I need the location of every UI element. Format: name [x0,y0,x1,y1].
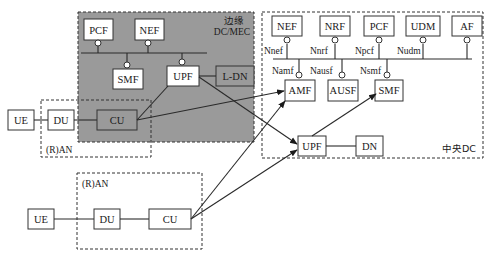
svg-text:AUSF: AUSF [330,85,357,96]
edge-cu-node: CU [97,110,137,130]
nrf-interface-icon [332,37,338,43]
central-dn-node: DN [356,136,383,156]
svg-text:CU: CU [163,214,178,225]
edge-smf-node: SMF [113,69,143,89]
edge-nef-node: NEF [135,19,164,40]
edge-dc-title-line1: 边缘 [224,15,244,26]
nef-interface-icon [145,40,151,46]
du-bottom-node: DU [94,209,120,229]
nsmf-label: Nsmf [360,66,382,76]
central-nef-node: NEF [272,16,302,36]
udm-interface-icon [420,37,426,43]
network-architecture-diagram: 边缘 DC/MEC (R)AN 中央DC (R)AN PCF NEF SMF U… [0,0,489,258]
du-top-node: DU [48,110,74,130]
ran-top-label: (R)AN [46,145,73,156]
nnrf-label: Nnrf [310,46,329,56]
ran-bottom-label: (R)AN [82,179,109,190]
namf-label: Namf [272,66,294,76]
af-interface-icon [464,37,470,43]
central-af-node: AF [452,16,482,36]
svg-text:DU: DU [99,214,115,225]
svg-text:AF: AF [460,21,474,32]
npcf-label: Npcf [355,46,375,56]
svg-text:NEF: NEF [140,25,160,36]
nef-interface-icon [284,37,290,43]
svg-text:SMF: SMF [117,74,138,85]
central-pcf-node: PCF [364,16,394,36]
local-dn-node: L-DN [216,66,254,86]
svg-text:UE: UE [34,214,48,225]
cu-bottom-node: CU [149,209,191,229]
amf-interface-icon [296,72,302,78]
nnef-label: Nnef [264,46,284,56]
pcf-interface-icon [376,37,382,43]
pcf-interface-icon [95,40,101,46]
svg-text:DN: DN [362,141,378,152]
svg-text:L-DN: L-DN [222,71,247,82]
edge-upf-node: UPF [167,66,199,86]
edge-pcf-node: PCF [84,19,113,40]
ue-top-node: UE [8,110,34,130]
central-upf-node: UPF [298,136,326,156]
svg-text:CU: CU [110,115,125,126]
svg-text:UPF: UPF [302,141,321,152]
svg-text:SMF: SMF [378,85,399,96]
svg-text:PCF: PCF [89,25,108,36]
ue-bottom-node: UE [28,209,54,229]
upf-interface-icon [179,59,185,65]
edge-dc-title-line2: DC/MEC [214,27,250,37]
central-amf-node: AMF [285,80,315,101]
svg-text:UDM: UDM [411,21,436,32]
smf-interface-icon [384,72,390,78]
central-nrf-node: NRF [320,16,350,36]
central-udm-node: UDM [406,16,440,36]
central-ausf-node: AUSF [328,80,358,101]
svg-text:UE: UE [14,115,28,126]
svg-text:NRF: NRF [325,21,346,32]
svg-text:UPF: UPF [173,71,192,82]
svg-text:AMF: AMF [289,85,312,96]
svg-text:NEF: NEF [277,21,297,32]
ausf-interface-icon [339,72,345,78]
smf-interface-icon [124,62,130,68]
svg-text:DU: DU [53,115,69,126]
nausf-label: Nausf [310,66,334,76]
central-dc-title: 中央DC [442,143,476,154]
nudm-label: Nudm [397,46,421,56]
central-smf-node: SMF [375,80,403,101]
svg-text:PCF: PCF [370,21,389,32]
